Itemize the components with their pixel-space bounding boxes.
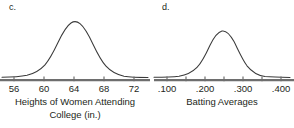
normal-density-path-c [2, 22, 148, 78]
normal-curve-heights-svg [0, 14, 150, 78]
figure-container: c. 56 60 64 68 72 [0, 0, 294, 128]
x-tick-label: 56 [9, 83, 20, 95]
normal-curve-heights [0, 14, 150, 78]
panel-d: d. .100 .200 [150, 0, 294, 128]
panel-letter-c: c. [9, 2, 16, 12]
x-tick-labels-heights: 56 60 64 68 72 [0, 83, 150, 95]
caption-line-1: Batting Averages [150, 96, 294, 109]
panel-c: c. 56 60 64 68 72 [0, 0, 150, 128]
x-tick-label: 64 [69, 83, 80, 95]
normal-density-path-d [154, 31, 290, 78]
normal-curve-batting [150, 14, 294, 78]
x-tick-label: .200 [196, 83, 215, 95]
x-tick-labels-batting: .100 .200 .300 .400 [150, 83, 294, 95]
caption-batting: Batting Averages [150, 96, 294, 109]
x-tick-label: .100 [158, 83, 177, 95]
x-tick-label: 68 [99, 83, 110, 95]
x-tick-label: .300 [234, 83, 253, 95]
caption-heights: Heights of Women Attending College (in.) [0, 96, 150, 121]
caption-line-1: Heights of Women Attending [0, 96, 150, 109]
panel-letter-d: d. [162, 2, 170, 12]
x-tick-label: 60 [39, 83, 50, 95]
normal-curve-batting-svg [150, 14, 294, 78]
caption-line-2: College (in.) [0, 109, 150, 122]
x-tick-label: 72 [129, 83, 140, 95]
x-tick-label: .400 [272, 83, 291, 95]
